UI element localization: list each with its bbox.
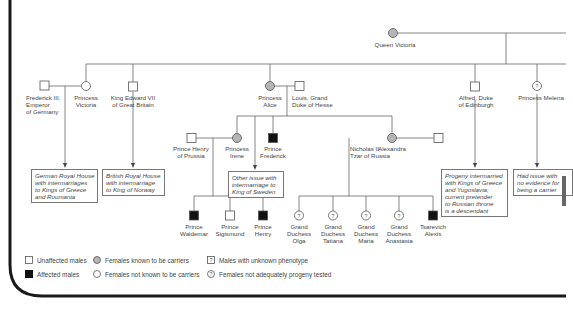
svg-text:?: ? [365,213,368,219]
label-tatiana: Grand Duchess Tatiana [321,223,345,244]
label-prince-waldemar: Prince Waldemar [180,223,208,237]
carrier-female-icon [93,256,101,264]
female-icon [82,82,91,91]
label-princess-melena: Princess Melena [518,94,564,101]
unknown-male-icon: ? [207,256,215,264]
svg-text:?: ? [298,213,301,219]
affected-male-icon [429,211,438,220]
note-german-royal-house: German Royal House with intermarriages t… [31,169,98,203]
label-maria: Grand Duchess Maria [354,223,378,244]
unaffected-male-icon [187,134,196,143]
note-british-royal-house: British Royal House with intermarriage t… [102,169,165,196]
affected-male-icon [190,211,199,220]
frame-border [10,0,566,296]
label-princess-alice: Princess Alice [258,94,282,108]
label-princess-irene: Princess Irene [225,145,249,159]
label-prince-sigismund: Prince Sigismund [216,223,245,237]
legend-unaffected-males: Unaffected males [25,256,87,264]
carrier-female-icon [266,82,275,91]
page-edge-shadow [562,176,566,206]
affected-male-icon [259,211,268,220]
affected-male-icon [269,134,278,143]
svg-text:?: ? [332,213,335,219]
unaffected-male-icon [434,134,443,143]
label-queen-victoria: Queen Victoria [375,41,416,48]
affected-male-icon [25,270,33,278]
label-edward-vii: King Edward VII of Great Britain [111,94,155,108]
label-prince-henry: Prince Henry [254,223,272,237]
label-nicholas-ii: Nicholas II, Tzar of Russia [350,145,390,159]
label-frederick-iii: Frederick III, Emperor of Germany [26,94,60,115]
unaffected-male-icon [226,211,235,220]
label-alfred: Alfred, Duke of Edinburgh [458,94,493,108]
svg-text:?: ? [209,257,212,263]
note-sweden: Other issue with intermarriage to King o… [228,171,284,198]
female-icon [93,270,101,278]
unaffected-male-icon [25,256,33,264]
legend-affected-males: Affected males [25,270,79,278]
label-prince-frederick: Prince Frederick [260,145,286,159]
carrier-female-icon [389,29,398,38]
label-anastasia: Grand Duchess Anastasia [385,223,412,244]
svg-text:?: ? [536,83,539,89]
label-prince-henry-prussia: Prince Henry of Prussia [173,145,209,159]
label-olga: Grand Duchess Olga [287,223,311,244]
legend-untested-females: ? Females not adequately progeny tested [207,270,331,278]
label-louis: Louis, Grand Duke of Hesse [292,94,333,108]
unaffected-male-icon [129,82,138,91]
label-alexis: Tsarevich Alexis [420,223,446,237]
carrier-female-icon [388,134,397,143]
untested-female-icon: ? [207,270,215,278]
svg-text:?: ? [210,271,213,277]
legend-carrier-females: Females known to be carriers [93,256,189,264]
svg-text:?: ? [398,213,401,219]
legend-unknown-males: ? Males with unknown phenotype [207,256,308,264]
unaffected-male-icon [471,82,480,91]
legend-noncarrier-females: Females not known to be carriers [93,270,199,278]
note-edinburgh: Progeny intermarried with Kings of Greec… [441,169,508,217]
unaffected-male-icon [40,81,49,90]
label-princess-victoria: Princess Victoria [74,94,98,108]
carrier-female-icon [233,134,242,143]
unaffected-male-icon [295,82,304,91]
